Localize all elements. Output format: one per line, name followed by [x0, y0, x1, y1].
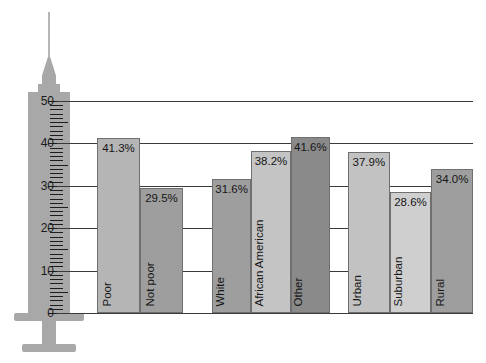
- syringe-graduation-mark: [50, 126, 63, 127]
- syringe-graduation-mark: [50, 131, 63, 132]
- syringe-graduation-mark: [50, 156, 63, 157]
- syringe-graduation-mark: [50, 258, 63, 259]
- y-tick-label-10: 10: [0, 265, 54, 277]
- bar-african-american[interactable]: 38.2%African American: [251, 151, 290, 313]
- bar-suburban[interactable]: 28.6%Suburban: [390, 192, 432, 313]
- syringe-graduation-mark: [50, 245, 63, 246]
- bar-poor[interactable]: 41.3%Poor: [97, 138, 140, 313]
- syringe-graduation-mark: [50, 118, 63, 119]
- syringe-graduation-mark: [50, 173, 63, 174]
- bar-category-label: Rural: [435, 279, 447, 306]
- syringe-graduation-mark: [50, 207, 68, 208]
- syringe-graduation-mark: [50, 215, 63, 216]
- bar-not-poor[interactable]: 29.5%Not poor: [140, 188, 183, 313]
- syringe-graduation-mark: [50, 109, 63, 110]
- y-tick-label-30: 30: [0, 180, 54, 192]
- syringe-graduation-mark: [50, 279, 63, 280]
- syringe-graduation-mark: [50, 254, 63, 255]
- syringe-graduation-mark: [50, 160, 63, 161]
- syringe-graduation-mark: [50, 249, 68, 250]
- bar-value-label: 41.3%: [98, 143, 139, 155]
- y-tick-label-40: 40: [0, 137, 54, 149]
- syringe-thumb-press-icon: [22, 344, 76, 352]
- syringe-graduation-mark: [50, 300, 63, 301]
- syringe-graduation-mark: [50, 203, 63, 204]
- bar-rural[interactable]: 34.0%Rural: [431, 169, 473, 313]
- syringe-graduation-mark: [50, 169, 63, 170]
- syringe-graduation-mark: [50, 152, 63, 153]
- syringe-graduation-mark: [50, 122, 68, 123]
- syringe-graduation-mark: [50, 241, 63, 242]
- syringe-barrel-icon: [28, 92, 70, 314]
- y-tick-label-0: 0: [0, 307, 54, 319]
- syringe-graduation-mark: [50, 114, 63, 115]
- bar-value-label: 41.6%: [292, 142, 329, 154]
- gridline-50: [57, 101, 473, 102]
- syringe-graduation-mark: [50, 288, 63, 289]
- bar-value-label: 31.6%: [213, 184, 250, 196]
- syringe-graduation-mark: [50, 165, 68, 166]
- syringe-graduation-mark: [50, 296, 63, 297]
- bar-category-label: Other: [293, 277, 305, 306]
- syringe-needle-icon: [48, 12, 50, 64]
- y-tick-label-20: 20: [0, 222, 54, 234]
- syringe-graduation-mark: [50, 237, 63, 238]
- bar-value-label: 28.6%: [391, 197, 431, 209]
- bar-value-label: 29.5%: [141, 193, 182, 205]
- syringe-graduation-mark: [50, 194, 63, 195]
- syringe-graduation-mark: [50, 283, 63, 284]
- bar-urban[interactable]: 37.9%Urban: [348, 152, 390, 313]
- bar-other[interactable]: 41.6%Other: [291, 137, 330, 313]
- syringe-graduation-mark: [50, 292, 68, 293]
- bar-category-label: Poor: [101, 282, 113, 306]
- syringe-graduation-mark: [50, 211, 63, 212]
- bar-value-label: 34.0%: [432, 174, 472, 186]
- bar-category-label: Urban: [351, 275, 363, 306]
- axis-baseline: [57, 313, 473, 314]
- syringe-bar-chart: 01020304050 41.3%Poor29.5%Not poor31.6%W…: [0, 0, 486, 363]
- syringe-hub-icon: [42, 57, 56, 87]
- bar-white[interactable]: 31.6%White: [212, 179, 251, 313]
- bar-value-label: 38.2%: [252, 156, 289, 168]
- bar-category-label: Suburban: [393, 256, 405, 306]
- bar-value-label: 37.9%: [349, 157, 389, 169]
- y-tick-label-50: 50: [0, 95, 54, 107]
- bar-category-label: African American: [253, 219, 265, 306]
- bar-category-label: White: [214, 277, 226, 306]
- syringe-graduation-mark: [50, 199, 63, 200]
- bar-category-label: Not poor: [144, 262, 156, 306]
